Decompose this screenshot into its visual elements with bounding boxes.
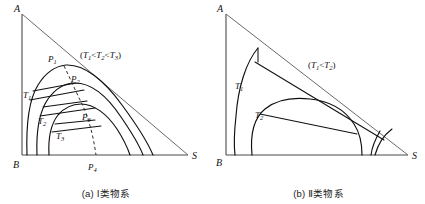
vertex-label-b: B [13, 159, 19, 170]
panel-type-i: A B S (T1<T2<T3) T1 T2 T3 [0, 0, 212, 204]
figure-root: A B S (T1<T2<T3) T1 T2 T3 [0, 0, 425, 204]
tie-line-t1-a [33, 83, 76, 91]
temperature-order-note: (T1<T2) [308, 60, 336, 71]
vertex-label-a: A [13, 3, 21, 14]
vertex-label-s: S [412, 150, 417, 161]
point-label-p3: P3 [81, 112, 92, 123]
curve-label-t3: T3 [56, 131, 65, 142]
point-label-p2: P2 [70, 74, 81, 85]
vertex-label-s: S [192, 150, 197, 161]
tie-boundary-t2-lower [260, 114, 357, 134]
curve-label-t2: T2 [38, 116, 47, 127]
temperature-order-note: (T1<T2<T3) [80, 50, 121, 61]
curve-label-t1: T1 [23, 90, 31, 101]
tie-line-t1-b [30, 90, 84, 100]
caption-panel-a: (a) Ⅰ类物系 [0, 186, 212, 200]
solubility-curve-t1-left [234, 48, 258, 155]
vertex-label-a: A [216, 3, 224, 14]
point-label-p1: P1 [47, 54, 57, 65]
diagram-type-i: A B S (T1<T2<T3) T1 T2 T3 [0, 0, 212, 204]
point-label-p4: P4 [87, 162, 98, 173]
caption-panel-b: (b) Ⅱ类物系 [212, 186, 425, 200]
corner-curve-near-s [375, 129, 392, 155]
vertex-label-b: B [216, 157, 222, 168]
diagram-type-ii: A B S (T1<T2) T1 T2 [212, 0, 425, 204]
axis-as-hypotenuse [226, 14, 408, 155]
binodal-curve-t1 [27, 65, 153, 155]
panel-type-ii: A B S (T1<T2) T1 T2 (b) Ⅱ类物系 [212, 0, 425, 204]
